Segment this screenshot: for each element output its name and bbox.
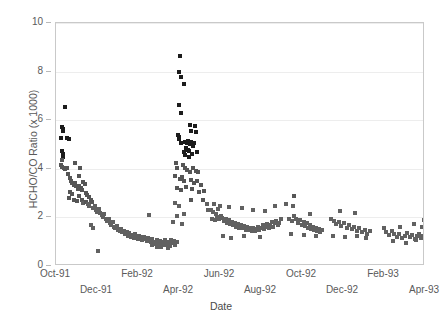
data-point [60,158,64,162]
data-point [229,236,233,240]
data-point [194,130,198,134]
data-point [279,217,283,221]
data-point [188,170,192,174]
data-point [197,190,201,194]
data-point [67,137,71,141]
plot-area [55,22,424,265]
data-point [189,129,193,133]
data-point [240,206,244,210]
data-point [290,219,294,223]
data-point [179,188,183,192]
y-tick-label: 10 [32,17,43,27]
data-point [387,233,391,237]
data-point [364,236,368,240]
data-point [177,204,181,208]
chart-figure: HCHO/CO Ratio (x 1000) 0246810 Oct-91Dec… [0,0,442,323]
x-tick-label: Apr-92 [163,284,193,295]
data-point [218,204,222,208]
data-point [75,199,79,203]
data-point [320,228,324,232]
data-point [422,218,424,222]
data-point [195,150,199,154]
data-point [284,202,288,206]
data-point [188,123,192,127]
data-point [289,232,293,236]
data-point [398,225,402,229]
data-point [355,234,359,238]
data-point [221,234,225,238]
data-point [404,241,408,245]
data-point [414,238,418,242]
data-point [65,166,69,170]
x-tick-label: Apr-93 [409,284,439,295]
y-tick-mark [46,71,51,72]
data-point [178,54,182,58]
data-point [251,208,255,212]
gridline [56,72,423,73]
data-point [227,205,231,209]
data-point [177,103,181,107]
data-point [78,166,82,170]
data-point [391,239,395,243]
data-point [202,189,206,193]
data-point [382,226,386,230]
data-point [179,75,183,79]
data-point [331,234,335,238]
data-point [338,209,342,213]
x-tick-label: Feb-92 [121,268,153,279]
x-tick-label: Feb-93 [367,268,399,279]
data-point [67,196,71,200]
data-point [96,249,100,253]
data-point [182,212,186,216]
gridline [56,217,423,218]
data-point [308,212,312,216]
y-tick-label: 4 [37,163,43,173]
data-point [150,243,154,247]
data-point [314,234,318,238]
gridline [56,120,423,121]
y-tick-mark [46,119,51,120]
data-point [273,204,277,208]
data-point [182,82,186,86]
x-tick-label: Jun-92 [204,268,235,279]
y-tick-mark [46,168,51,169]
gridline [56,23,423,24]
data-point [179,111,183,115]
data-point [173,174,177,178]
data-point [63,105,67,109]
data-point [147,213,151,217]
y-tick-mark [46,22,51,23]
x-tick-label: Oct-92 [286,268,316,279]
data-point [184,185,188,189]
data-point [61,129,65,133]
data-point [258,235,262,239]
data-point [168,244,172,248]
data-point [77,174,81,178]
x-axis: Oct-91Dec-91Feb-92Apr-92Jun-92Aug-92Oct-… [0,265,442,323]
data-point [242,234,246,238]
data-point [192,141,196,145]
data-point [205,202,209,206]
data-point [190,187,194,191]
data-point [368,229,372,233]
data-point [302,233,306,237]
gridline [56,169,423,170]
data-point [421,234,424,238]
data-point [199,183,203,187]
data-point [190,152,194,156]
data-point [179,141,183,145]
y-tick-label: 8 [37,66,43,76]
data-point [193,124,197,128]
y-tick-label: 2 [37,211,43,221]
data-point [212,202,216,206]
data-point [175,186,179,190]
data-point [263,209,267,213]
y-tick-mark [46,216,51,217]
data-point [412,222,416,226]
data-point [180,222,184,226]
data-point [343,235,347,239]
data-point [59,136,63,140]
x-tick-label: Dec-92 [326,284,358,295]
data-point [175,166,179,170]
data-point [91,226,95,230]
